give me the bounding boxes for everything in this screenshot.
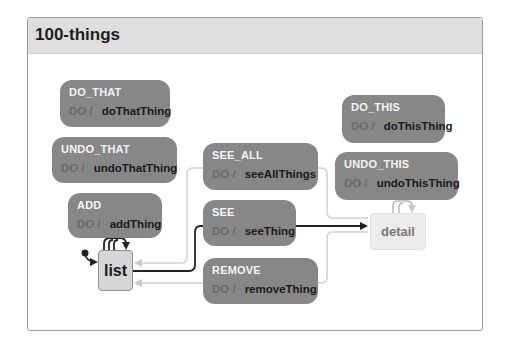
- event-remove[interactable]: REMOVE DO /removeThing: [203, 258, 318, 304]
- do-label: DO /: [212, 168, 236, 180]
- event-name: UNDO_THAT: [61, 143, 169, 155]
- event-name: DO_THAT: [69, 86, 162, 98]
- event-undo-that[interactable]: UNDO_THAT DO /undoThatThing: [52, 137, 177, 183]
- action-name: seeAllThings: [245, 168, 317, 180]
- state-list[interactable]: list: [98, 250, 133, 291]
- action-name: undoThatThing: [94, 162, 178, 174]
- edge-list-self-loop-3: [114, 240, 118, 250]
- edge-detail-self-loop-2: [399, 203, 403, 213]
- event-see[interactable]: SEE DO /seeThing: [203, 200, 296, 246]
- do-label: DO /: [212, 283, 236, 295]
- action-name: doThatThing: [102, 105, 172, 117]
- event-see-all[interactable]: SEE_ALL DO /seeAllThings: [203, 143, 318, 190]
- event-name: SEE: [212, 206, 288, 218]
- event-do-this[interactable]: DO_THIS DO /doThisThing: [342, 95, 445, 143]
- do-label: DO /: [77, 218, 101, 230]
- event-add[interactable]: ADD DO /addThing: [68, 193, 162, 238]
- state-detail[interactable]: detail: [370, 213, 426, 250]
- action-name: doThisThing: [384, 120, 453, 132]
- do-label: DO /: [69, 105, 93, 117]
- state-label: list: [104, 262, 127, 280]
- edge-list-self-loop-2: [109, 240, 113, 250]
- event-name: REMOVE: [212, 264, 310, 276]
- do-label: DO /: [212, 225, 236, 237]
- event-name: UNDO_THIS: [344, 158, 450, 170]
- event-undo-this[interactable]: UNDO_THIS DO /undoThisThing: [335, 152, 458, 200]
- action-name: seeThing: [245, 225, 295, 237]
- action-name: removeThing: [245, 283, 317, 295]
- do-label: DO /: [344, 177, 368, 189]
- do-label: DO /: [61, 162, 85, 174]
- action-name: addThing: [110, 218, 162, 230]
- event-do-that[interactable]: DO_THAT DO /doThatThing: [60, 80, 170, 127]
- edge-detail-to-remove: [318, 232, 368, 283]
- do-label: DO /: [351, 120, 375, 132]
- state-label: detail: [381, 224, 415, 239]
- event-name: DO_THIS: [351, 101, 437, 113]
- action-name: undoThisThing: [377, 177, 460, 189]
- event-name: SEE_ALL: [212, 149, 310, 161]
- event-name: ADD: [77, 199, 154, 211]
